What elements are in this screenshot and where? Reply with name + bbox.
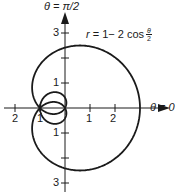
y-tick-label-1-bottom: 1 <box>53 127 59 138</box>
fraction-denominator: 2 <box>147 35 151 42</box>
fraction-numerator: θ <box>146 27 152 35</box>
equation-label: r = 1− 2 cos θ 2 <box>86 27 152 42</box>
y-tick-label-1-top: 1 <box>53 77 59 88</box>
equation-lhs: r <box>86 29 90 40</box>
equation-fraction: θ 2 <box>146 27 152 42</box>
x-tick-label-neg2: 2 <box>12 113 18 124</box>
horizontal-axis-label-text: θ = 0 <box>150 101 175 113</box>
x-tick-label-neg1: 1 <box>37 113 43 124</box>
equation-rhs: = 1− 2 cos <box>93 29 144 40</box>
y-tick-label-3-top: 3 <box>53 27 59 38</box>
horizontal-axis-label: θ = 0 <box>150 102 175 113</box>
x-tick-label-2: 2 <box>110 113 116 124</box>
vertical-axis-label-text: θ = π/2 <box>44 0 79 12</box>
y-tick-label-3-bottom: 3 <box>53 177 59 188</box>
y-axis-arrow-icon <box>61 12 69 24</box>
vertical-axis-label: θ = π/2 <box>44 1 79 12</box>
x-tick-label-1: 1 <box>86 113 92 124</box>
